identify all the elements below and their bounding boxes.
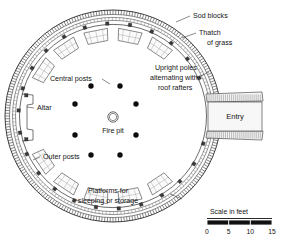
leader-platforms <box>170 194 182 199</box>
outer-post[interactable] <box>160 193 165 198</box>
central-post[interactable] <box>133 132 138 137</box>
scale-tick-label: 5 <box>227 228 231 235</box>
outer-post[interactable] <box>62 34 67 39</box>
outer-post[interactable] <box>30 66 35 71</box>
outer-post[interactable] <box>128 23 132 27</box>
platform[interactable] <box>54 37 81 60</box>
thatch-tick <box>28 63 31 65</box>
outer-post[interactable] <box>105 22 109 26</box>
outer-post[interactable] <box>192 162 197 167</box>
sod-block-tick <box>155 209 157 213</box>
thatch-tick <box>35 54 37 56</box>
sod-block-tick <box>41 192 44 195</box>
thatch-tick <box>92 209 93 212</box>
sod-block-tick <box>99 217 100 221</box>
thatch-tick <box>155 202 156 205</box>
sod-block-tick <box>148 212 150 216</box>
central-post[interactable] <box>133 101 138 106</box>
outer-post[interactable] <box>169 41 174 46</box>
sod-block-tick <box>14 157 18 159</box>
sod-block-tick <box>19 63 23 65</box>
outer-post[interactable] <box>94 205 98 209</box>
thatch-tick <box>40 182 42 184</box>
altar-post-top <box>25 94 28 97</box>
thatch-tick <box>18 83 21 84</box>
outer-post[interactable] <box>18 131 22 135</box>
thatch-tick <box>94 19 95 22</box>
label-thatch-line1: Thatch <box>199 29 221 37</box>
platform[interactable] <box>116 28 142 44</box>
sod-block-tick <box>39 39 42 42</box>
outer-post[interactable] <box>185 56 190 61</box>
leader-sod-blocks <box>176 16 190 22</box>
thatch-tick <box>60 33 62 36</box>
sod-block-tick <box>6 102 10 103</box>
thatch-tick <box>24 69 27 70</box>
platform[interactable] <box>84 28 110 44</box>
central-post[interactable] <box>117 83 122 88</box>
sod-block-tick <box>200 171 204 173</box>
outer-post[interactable] <box>44 48 49 53</box>
platform[interactable] <box>54 172 81 195</box>
central-post[interactable] <box>88 83 93 88</box>
thatch-tick <box>33 174 35 176</box>
sod-block-tick <box>82 14 83 18</box>
sod-block-tick <box>172 200 175 204</box>
platform[interactable] <box>146 37 173 60</box>
thatch-tick <box>135 209 136 212</box>
sod-block-tick <box>140 214 141 218</box>
platform[interactable] <box>146 172 173 195</box>
label-outer-posts: Outer posts <box>43 153 80 161</box>
sod-block-tick <box>182 192 185 195</box>
outer-posts-ring[interactable] <box>17 22 205 210</box>
thatch-tick <box>191 173 193 175</box>
scale-caption: Scale in feet <box>210 208 248 215</box>
central-posts-group[interactable] <box>72 83 138 157</box>
sod-block-tick <box>150 211 152 215</box>
sod-block-tick <box>204 164 208 166</box>
sod-block-tick <box>129 11 130 15</box>
sod-block-tick <box>127 11 128 15</box>
thatch-tick <box>88 209 89 212</box>
central-post[interactable] <box>117 152 122 157</box>
thatch-tick <box>186 50 188 52</box>
thatch-tick <box>162 199 164 202</box>
sod-block-tick <box>186 188 189 191</box>
sod-block-tick <box>24 174 28 176</box>
thatch-tick <box>149 205 150 208</box>
outer-post[interactable] <box>36 171 41 176</box>
leader-thatch <box>182 33 196 38</box>
sod-block-tick <box>29 180 32 183</box>
sod-block-tick <box>193 180 196 183</box>
sod-block-tick <box>61 205 63 209</box>
thatch-tick <box>151 25 152 28</box>
sod-block-tick <box>61 23 63 27</box>
sod-block-tick <box>17 162 21 164</box>
label-entry: Entry <box>226 112 244 121</box>
central-post[interactable] <box>72 132 77 137</box>
central-post[interactable] <box>88 152 93 157</box>
sod-block-tick <box>188 43 191 46</box>
sod-block-tick <box>93 12 94 16</box>
outer-post[interactable] <box>177 179 182 184</box>
sod-block-tick <box>132 12 133 16</box>
thatch-tick <box>193 59 195 61</box>
sod-block-tick <box>205 162 209 164</box>
sod-block-tick <box>195 178 199 181</box>
outer-post[interactable] <box>117 207 121 211</box>
sod-block-tick <box>195 51 199 54</box>
sod-block-tick <box>208 73 212 75</box>
outer-post[interactable] <box>52 187 57 192</box>
sod-block-tick <box>7 137 11 138</box>
platforms-ring[interactable] <box>32 28 172 203</box>
central-post[interactable] <box>72 101 77 106</box>
sod-block-tick <box>64 22 66 26</box>
thatch-tick <box>40 49 42 51</box>
thatch-tick <box>182 184 184 186</box>
platform[interactable] <box>32 148 55 175</box>
sod-block-tick <box>9 86 13 87</box>
thatch-tick <box>201 158 204 159</box>
outer-post[interactable] <box>17 109 21 113</box>
leader-upright-poles <box>196 72 209 78</box>
sod-block-tick <box>8 91 12 92</box>
